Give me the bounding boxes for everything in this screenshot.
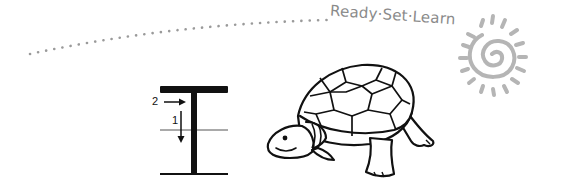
turtle-illustration <box>0 0 562 192</box>
